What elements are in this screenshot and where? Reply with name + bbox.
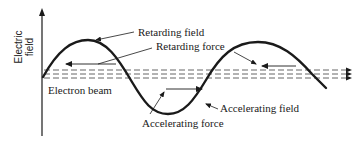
label-electron-beam: Electron beam: [48, 84, 112, 96]
y-axis-label-line1: Electric: [13, 31, 24, 64]
label-retarding-force: Retarding force: [156, 40, 225, 52]
beam-arrowheads-icon: [346, 68, 352, 81]
leader-retarding-force-left: [98, 48, 152, 64]
leader-retarding-field: [96, 32, 134, 40]
label-retarding-field: Retarding field: [138, 26, 205, 38]
y-axis-label-line2: field: [24, 38, 35, 56]
y-axis: [39, 8, 45, 136]
y-axis-arrow-icon: [39, 8, 45, 16]
electron-beam: [44, 70, 346, 78]
leader-retarding-force-right: [234, 52, 256, 64]
label-accelerating-field: Accelerating field: [220, 102, 300, 114]
electron-beam-field-diagram: Electric field Retarding field Retarding…: [0, 0, 356, 144]
leader-accelerating-field: [206, 104, 218, 109]
label-accelerating-force: Accelerating force: [142, 117, 224, 129]
y-axis-label: Electric field: [13, 31, 35, 64]
